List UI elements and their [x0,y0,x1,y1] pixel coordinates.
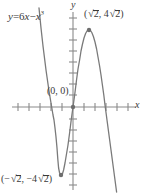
max-radical-two-bar [115,10,121,11]
origin-dot [71,105,75,109]
origin-label: (0, 0) [47,86,69,96]
x-axis-label: x [135,100,139,110]
local-minimum-dot [59,173,63,177]
equation-label: y=6x−x3 [8,10,44,22]
local-maximum-dot [87,28,91,32]
min-label-open: (− [1,173,10,184]
min-label-close: ) [49,173,52,184]
cubic-curve [39,8,117,192]
min-radical-two-bar [43,175,49,176]
max-label-mid: , 4 [99,8,109,19]
max-label-close: ) [120,8,123,19]
local-minimum-label: (−√2, −4√2) [1,174,52,184]
equation-exponent: 3 [41,9,45,17]
max-radical-one: √2 [87,9,99,19]
y-axis-label: y [71,0,75,10]
max-radical-one-bar [93,10,99,11]
cubic-function-graph [0,0,144,193]
min-radical-one-bar [16,175,22,176]
min-label-mid: , −4 [21,173,37,184]
local-maximum-label: (√2, 4√2) [84,9,124,19]
max-radical-two: √2 [109,9,121,19]
min-radical-two: √2 [37,174,49,184]
min-radical-one: √2 [10,174,22,184]
